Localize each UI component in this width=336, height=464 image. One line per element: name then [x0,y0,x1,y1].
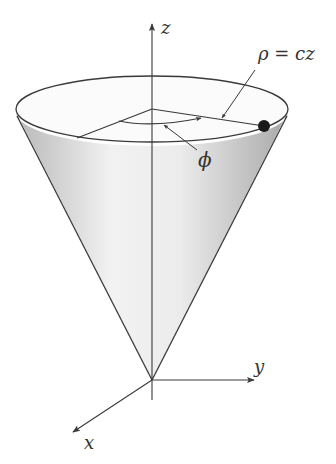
cone-diagram: z y x ρ = cz ϕ [0,0,336,464]
angle-phi-label: ϕ [198,148,212,172]
surface-equation-label: ρ = cz [257,43,315,64]
y-axis-label: y [253,356,265,377]
x-axis [73,380,152,432]
z-axis-label: z [160,17,171,38]
point-marker [258,120,270,132]
x-axis-label: x [84,432,94,453]
